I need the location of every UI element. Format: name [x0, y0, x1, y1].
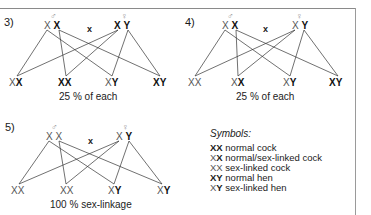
offspring-genotype: XX	[60, 186, 73, 196]
male-genotype: X X	[44, 21, 60, 31]
offspring-genotype: XX	[11, 186, 24, 196]
male-genotype: X X	[46, 132, 62, 142]
legend-row: XY sex-linked hen	[210, 183, 287, 193]
inheritance-lines	[0, 0, 371, 215]
offspring-genotype: XX	[58, 78, 71, 88]
offspring-genotype: XX	[188, 78, 201, 88]
female-genotype: X Y	[292, 21, 308, 31]
male-genotype: X X	[222, 21, 238, 31]
female-genotype: X Y	[114, 21, 130, 31]
panel-caption: 100 % sex-linkage	[50, 200, 132, 210]
offspring-genotype: XX	[9, 78, 22, 88]
panel-caption: 25 % of each	[236, 92, 294, 102]
offspring-genotype: XY	[329, 78, 342, 88]
offspring-genotype: XY	[283, 78, 296, 88]
cross-symbol: x	[88, 137, 93, 146]
panel-caption: 25 % of each	[59, 92, 117, 102]
female-genotype: X Y	[116, 132, 132, 142]
cross-symbol: x	[263, 25, 268, 34]
offspring-genotype: XX	[231, 78, 244, 88]
panel-label: 5)	[5, 122, 15, 133]
panel-label: 3)	[4, 17, 14, 28]
cross-symbol: x	[87, 25, 92, 34]
offspring-genotype: XY	[153, 78, 166, 88]
offspring-genotype: XY	[157, 186, 170, 196]
offspring-genotype: XY	[105, 78, 118, 88]
offspring-genotype: XY	[108, 186, 121, 196]
legend-title: Symbols:	[210, 129, 251, 139]
panel-label: 4)	[185, 17, 195, 28]
